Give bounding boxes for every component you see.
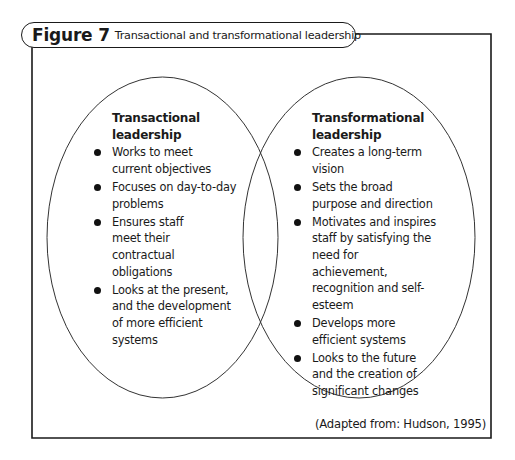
figure-title-pill: Figure 7 Transactional and transformatio… bbox=[21, 22, 356, 48]
item-text: Develops more efficient systems bbox=[312, 316, 406, 347]
item-text: Looks at the present, and the developmen… bbox=[112, 283, 231, 347]
list-item: Works to meet current objectives bbox=[112, 144, 220, 177]
item-text: Focuses on day-to-day problems bbox=[112, 180, 236, 211]
transformational-heading: Transformational leadership bbox=[312, 110, 462, 143]
transactional-column: Transactional leadership Works to meet c… bbox=[112, 110, 262, 350]
item-text: Looks to the future and the creation of … bbox=[312, 351, 419, 398]
bullet-icon bbox=[294, 320, 301, 327]
item-text: Motivates and inspires staff by satisfyi… bbox=[312, 215, 436, 312]
figure-title: Transactional and transformational leade… bbox=[115, 29, 361, 42]
heading-line: leadership bbox=[112, 127, 262, 144]
transformational-list: Creates a long-term vision Sets the broa… bbox=[312, 144, 462, 399]
bullet-icon bbox=[294, 184, 301, 191]
item-text: Ensures staff meet their contractual obl… bbox=[112, 215, 183, 279]
heading-line: leadership bbox=[312, 127, 462, 144]
list-item: Ensures staff meet their contractual obl… bbox=[112, 214, 212, 280]
list-item: Focuses on day-to-day problems bbox=[112, 179, 240, 212]
item-text: Works to meet current objectives bbox=[112, 145, 211, 176]
source-caption: (Adapted from: Hudson, 1995) bbox=[315, 417, 486, 431]
bullet-icon bbox=[294, 219, 301, 226]
bullet-icon bbox=[94, 287, 101, 294]
bullet-icon bbox=[294, 355, 301, 362]
item-text: Creates a long-term vision bbox=[312, 145, 422, 176]
heading-line: Transformational bbox=[312, 110, 462, 127]
list-item: Sets the broad purpose and direction bbox=[312, 179, 434, 212]
bullet-icon bbox=[94, 184, 101, 191]
list-item: Develops more efficient systems bbox=[312, 315, 408, 348]
bullet-icon bbox=[94, 219, 101, 226]
transactional-heading: Transactional leadership bbox=[112, 110, 262, 143]
item-text: Sets the broad purpose and direction bbox=[312, 180, 433, 211]
figure-label: Figure 7 bbox=[32, 25, 110, 45]
list-item: Creates a long-term vision bbox=[312, 144, 428, 177]
transformational-column: Transformational leadership Creates a lo… bbox=[312, 110, 462, 401]
list-item: Looks to the future and the creation of … bbox=[312, 350, 424, 400]
heading-line: Transactional bbox=[112, 110, 262, 127]
list-item: Motivates and inspires staff by satisfyi… bbox=[312, 214, 436, 314]
list-item: Looks at the present, and the developmen… bbox=[112, 282, 232, 348]
transactional-list: Works to meet current objectives Focuses… bbox=[112, 144, 262, 348]
